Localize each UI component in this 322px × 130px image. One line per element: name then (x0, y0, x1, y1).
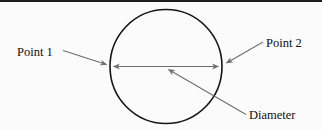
label-point-1: Point 1 (17, 45, 53, 59)
label-point-2: Point 2 (266, 36, 302, 50)
diameter-leader-line (169, 70, 247, 115)
point-1-leader-line (63, 51, 107, 65)
point-2-leader-line (227, 42, 264, 63)
label-diameter: Diameter (249, 108, 296, 122)
diagram-canvas: Point 1 Point 2 Diameter (0, 0, 322, 130)
circle-diameter-figure: Point 1 Point 2 Diameter (0, 0, 322, 130)
